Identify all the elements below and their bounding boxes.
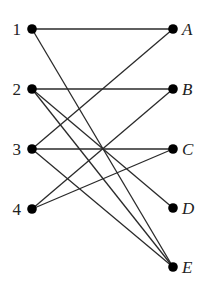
edges-group xyxy=(32,29,173,267)
node-label-C: C xyxy=(182,140,194,159)
edge-4-C xyxy=(32,149,173,209)
node-3 xyxy=(27,144,37,154)
node-4 xyxy=(27,204,37,214)
node-label-B: B xyxy=(182,80,193,99)
node-label-D: D xyxy=(181,199,195,218)
edge-3-E xyxy=(32,149,173,267)
node-label-2: 2 xyxy=(13,80,22,99)
node-1 xyxy=(27,24,37,34)
edge-2-E xyxy=(32,89,173,267)
node-label-1: 1 xyxy=(13,20,22,39)
node-label-A: A xyxy=(181,20,193,39)
node-C xyxy=(168,144,178,154)
node-B xyxy=(168,84,178,94)
bipartite-graph: 1234ABCDE xyxy=(0,0,212,291)
node-D xyxy=(168,203,178,213)
node-A xyxy=(168,24,178,34)
node-label-3: 3 xyxy=(13,140,22,159)
node-label-E: E xyxy=(181,258,193,277)
node-E xyxy=(168,262,178,272)
node-label-4: 4 xyxy=(13,200,22,219)
node-2 xyxy=(27,84,37,94)
